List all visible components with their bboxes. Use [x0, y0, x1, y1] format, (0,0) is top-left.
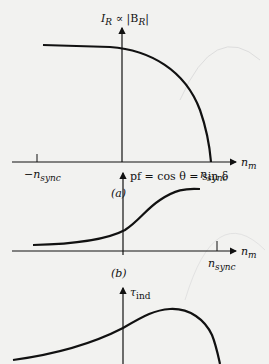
- caption-a: (a): [111, 187, 126, 200]
- y-label-b: pf = cos θ = sin δ: [130, 170, 229, 183]
- figure-canvas: IR ∝ |BR| nm −nsync nsync (a) pf = cos θ…: [0, 0, 269, 364]
- x-label-b: nm: [241, 245, 257, 260]
- curve-c: [13, 309, 220, 364]
- x-label-a: nm: [241, 156, 257, 171]
- pos-sync-label-b: nsync: [208, 257, 236, 272]
- y-label-c: τind: [130, 286, 151, 301]
- neg-sync-label: −nsync: [24, 168, 61, 183]
- chart-b: pf = cos θ = sin δ nm nsync (b): [12, 170, 257, 280]
- chart-c: τind: [13, 286, 220, 364]
- y-label-a: IR ∝ |BR|: [100, 12, 149, 27]
- curve-a: [43, 45, 211, 162]
- caption-b: (b): [111, 267, 127, 280]
